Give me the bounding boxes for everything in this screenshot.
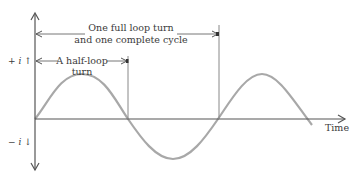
full-cycle-label-line1: One full loop turn	[88, 22, 173, 33]
y-axis	[31, 13, 39, 170]
half-cycle-label-line2: turn	[72, 66, 93, 77]
half-cycle-label-line1: A half-loop	[55, 55, 108, 66]
y-negative-label: − i ↓	[8, 137, 32, 147]
full-cycle-label-line2: and one complete cycle	[74, 34, 188, 45]
sine-wave	[35, 74, 312, 159]
sine-wave-diagram: One full loop turn and one complete cycl…	[0, 0, 358, 181]
x-axis	[35, 115, 345, 123]
x-axis-label: Time	[325, 122, 349, 133]
y-positive-label: + i ↑	[8, 56, 32, 66]
